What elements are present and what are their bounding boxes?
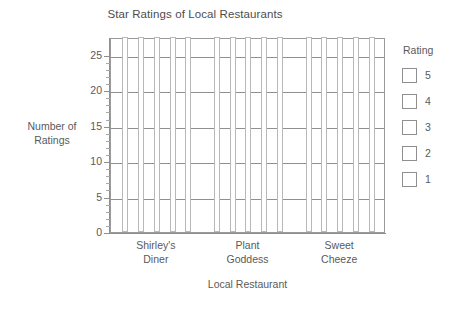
x-axis-tick-label-line2: Cheeze: [293, 252, 385, 266]
legend-item[interactable]: 1: [402, 166, 433, 192]
legend-swatch: [402, 146, 417, 161]
bar[interactable]: [185, 37, 191, 232]
bar[interactable]: [138, 37, 144, 232]
y-axis-minor-tick: [106, 77, 110, 78]
y-axis-tick-label-text: 10: [76, 156, 102, 167]
y-axis-minor-tick: [106, 183, 110, 184]
legend-item-label: 1: [425, 173, 431, 185]
bar[interactable]: [369, 37, 375, 232]
bar-group: [294, 39, 386, 232]
bar[interactable]: [122, 37, 128, 232]
y-axis-tick-label-text: 5: [76, 192, 102, 203]
y-axis-tick-label-text: 20: [76, 85, 102, 96]
bar[interactable]: [245, 37, 251, 232]
y-axis-title-line2: Ratings: [8, 133, 96, 147]
x-axis-tick-label-line2: Goddess: [202, 252, 294, 266]
y-axis-tick-label-text: 15: [76, 121, 102, 132]
y-axis-tick-label: 0: [72, 227, 102, 239]
x-axis-tick-label: PlantGoddess: [202, 238, 294, 266]
legend-items: 54321: [402, 62, 433, 192]
y-axis-minor-tick: [106, 205, 110, 206]
y-axis-tick: [104, 56, 110, 57]
y-axis-minor-tick: [106, 105, 110, 106]
bar[interactable]: [306, 37, 312, 232]
y-axis-tick: [104, 233, 110, 234]
bar-chart: Star Ratings of Local Restaurants Number…: [0, 0, 458, 310]
y-axis-tick-label: 5: [72, 192, 102, 204]
legend-item-label: 4: [425, 95, 431, 107]
legend-swatch: [402, 94, 417, 109]
y-axis-minor-tick: [106, 212, 110, 213]
x-axis-tick-label: SweetCheeze: [293, 238, 385, 266]
y-axis-tick-label: 25: [72, 50, 102, 62]
y-axis-minor-tick: [106, 141, 110, 142]
y-axis-minor-tick: [106, 70, 110, 71]
plot-area: [110, 38, 385, 233]
bar[interactable]: [230, 37, 236, 232]
bar-group: [111, 39, 203, 232]
legend-item-label: 5: [425, 69, 431, 81]
bar[interactable]: [321, 37, 327, 232]
x-axis-tick-label-line1: Plant: [202, 238, 294, 252]
legend-item[interactable]: 4: [402, 88, 433, 114]
bar[interactable]: [214, 37, 220, 232]
y-axis-minor-tick: [106, 176, 110, 177]
y-axis-minor-tick: [106, 120, 110, 121]
legend-item-label: 3: [425, 121, 431, 133]
bar[interactable]: [277, 37, 283, 232]
bar-group: [203, 39, 295, 232]
legend: Rating 54321: [402, 44, 433, 192]
bar[interactable]: [261, 37, 267, 232]
y-axis-tick-label-text: 0: [76, 227, 102, 238]
y-axis-minor-tick: [106, 155, 110, 156]
y-axis-tick-label: 20: [72, 85, 102, 97]
x-axis-tick-label: Shirley'sDiner: [110, 238, 202, 266]
y-axis-tick: [104, 162, 110, 163]
y-axis-minor-tick: [106, 219, 110, 220]
y-axis-minor-tick: [106, 112, 110, 113]
legend-item[interactable]: 5: [402, 62, 433, 88]
legend-item[interactable]: 3: [402, 114, 433, 140]
legend-item[interactable]: 2: [402, 140, 433, 166]
bar[interactable]: [337, 37, 343, 232]
x-axis-tick-label-line1: Shirley's: [110, 238, 202, 252]
y-axis-minor-tick: [106, 169, 110, 170]
y-axis-minor-tick: [106, 134, 110, 135]
y-axis-minor-tick: [106, 190, 110, 191]
x-axis-line: [109, 233, 386, 234]
plot-inner: [111, 39, 384, 232]
y-axis-minor-tick: [106, 84, 110, 85]
y-axis-tick: [104, 127, 110, 128]
bar[interactable]: [170, 37, 176, 232]
legend-item-label: 2: [425, 147, 431, 159]
legend-title: Rating: [403, 44, 433, 56]
bar[interactable]: [154, 37, 160, 232]
y-axis-tick: [104, 91, 110, 92]
legend-swatch: [402, 172, 417, 187]
x-axis-tick-label-line1: Sweet: [293, 238, 385, 252]
bar[interactable]: [353, 37, 359, 232]
y-axis-minor-tick: [106, 98, 110, 99]
x-axis-tick-label-line2: Diner: [110, 252, 202, 266]
y-axis-minor-tick: [106, 226, 110, 227]
y-axis-tick-label: 10: [72, 156, 102, 168]
legend-swatch: [402, 68, 417, 83]
y-axis-tick-label: 15: [72, 121, 102, 133]
y-axis-tick: [104, 198, 110, 199]
y-axis-minor-tick: [106, 63, 110, 64]
y-axis-minor-tick: [106, 148, 110, 149]
legend-swatch: [402, 120, 417, 135]
x-axis-title: Local Restaurant: [110, 278, 385, 290]
chart-title: Star Ratings of Local Restaurants: [0, 8, 390, 20]
y-axis-tick-label-text: 25: [76, 50, 102, 61]
